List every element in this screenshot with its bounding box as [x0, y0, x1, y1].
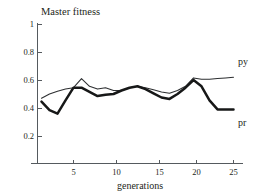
chart-canvas: 1 0.8 0.6 0.4 0.2 5 10 15 20 25 Master f… — [0, 0, 255, 194]
chart-title: Master fitness — [41, 6, 100, 17]
x-tick-label-20: 20 — [192, 167, 201, 177]
x-axis-group — [31, 160, 243, 164]
chart-figure: 1 0.8 0.6 0.4 0.2 5 10 15 20 25 Master f… — [0, 0, 255, 194]
y-tick-label-1: 1 — [30, 19, 34, 29]
x-tick-label-10: 10 — [112, 167, 121, 177]
series-label-pr: pr — [238, 117, 247, 128]
series-label-py: py — [238, 56, 248, 67]
y-tick-label-0-2: 0.2 — [23, 131, 34, 141]
x-tick-label-5: 5 — [71, 167, 75, 177]
y-tick-label-0-4: 0.4 — [23, 103, 34, 113]
y-tick-label-0-8: 0.8 — [23, 47, 34, 57]
y-axis-group — [38, 23, 42, 164]
x-tick-labels: 5 10 15 20 25 — [71, 167, 237, 177]
x-axis-title: generations — [117, 180, 163, 191]
y-tick-labels: 1 0.8 0.6 0.4 0.2 — [23, 19, 34, 141]
series-line-pr — [42, 80, 234, 114]
y-tick-label-0-6: 0.6 — [23, 75, 34, 85]
x-tick-label-15: 15 — [155, 167, 164, 177]
x-tick-label-25: 25 — [229, 167, 238, 177]
